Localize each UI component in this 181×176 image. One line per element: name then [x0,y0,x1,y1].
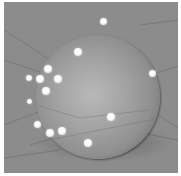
light-dot [36,75,44,83]
sphere-grid-reflection [4,2,178,173]
light-dot [84,139,92,147]
light-dot [27,99,32,104]
light-dot [100,18,107,25]
light-dot [46,129,54,137]
light-dot [74,48,82,56]
light-dot [42,87,50,95]
light-dot [26,75,32,81]
light-dot [34,121,41,128]
render-frame [4,2,178,173]
light-dot [54,75,62,83]
light-dot [44,65,52,73]
light-dot [58,127,66,135]
light-dot [149,70,156,77]
light-dot [107,113,115,121]
